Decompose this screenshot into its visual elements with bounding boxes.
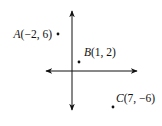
point-a (57, 33, 60, 36)
point-letter: B (84, 46, 91, 58)
point-coordinates: (7, −6) (124, 92, 156, 105)
point-c-label: C(7, −6) (116, 92, 155, 105)
point-b (78, 61, 81, 64)
point-coordinates: (−2, 6) (21, 28, 53, 41)
coordinate-diagram: A(−2, 6) B(1, 2) C(7, −6) (0, 0, 162, 126)
point-c (112, 106, 115, 109)
point-a-label: A(−2, 6) (13, 28, 53, 41)
point-coordinates: (1, 2) (91, 46, 116, 59)
point-b-label: B(1, 2) (84, 46, 116, 59)
